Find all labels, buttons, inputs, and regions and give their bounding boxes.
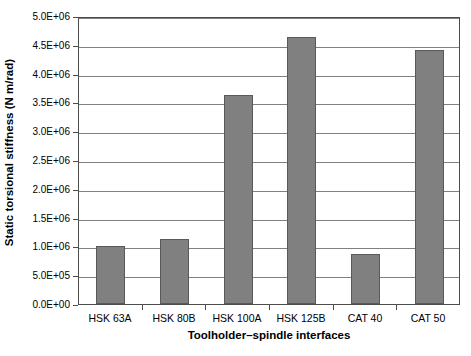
gridline <box>79 133 459 134</box>
bar[interactable] <box>351 254 380 304</box>
bar[interactable] <box>287 37 316 304</box>
gridline <box>79 248 459 249</box>
x-axis-tick-mark <box>396 305 397 310</box>
y-axis-tick-label: 2.0E+06 <box>14 184 70 196</box>
y-axis-tick-label: 3.0E+06 <box>14 126 70 138</box>
y-axis-tick-label: 2.5E+06 <box>14 155 70 167</box>
gridline <box>79 191 459 192</box>
gridline <box>79 104 459 105</box>
y-axis-tick-label: 4.0E+06 <box>14 69 70 81</box>
gridline <box>79 47 459 48</box>
y-axis-tick-label: 1.0E+06 <box>14 241 70 253</box>
gridline <box>79 277 459 278</box>
bar[interactable] <box>160 239 189 304</box>
x-axis-tick-mark <box>142 305 143 310</box>
bar-chart-figure: Static torsional stiffness (N m/rad) 0.0… <box>0 0 471 356</box>
gridline <box>79 220 459 221</box>
y-axis-tick-label: 1.5E+06 <box>14 213 70 225</box>
bar[interactable] <box>224 95 253 304</box>
y-axis-tick-label: 5.0E+06 <box>14 11 70 23</box>
y-axis-tick-mark <box>73 305 78 306</box>
x-axis-category-label: HSK 125B <box>269 311 333 325</box>
gridline <box>79 18 459 19</box>
x-axis-tick-mark <box>205 305 206 310</box>
bar[interactable] <box>96 246 125 304</box>
gridline <box>79 162 459 163</box>
y-axis-tick-label: 3.5E+06 <box>14 97 70 109</box>
gridline <box>79 76 459 77</box>
x-axis-tick-mark <box>269 305 270 310</box>
y-axis-tick-label: 5.0E+05 <box>14 270 70 282</box>
y-axis-tick-label: 4.5E+06 <box>14 40 70 52</box>
x-axis-tick-mark <box>333 305 334 310</box>
x-axis-category-label: HSK 80B <box>142 311 206 325</box>
x-axis-title: Toolholder–spindle interfaces <box>78 329 460 341</box>
plot-area <box>78 17 460 305</box>
x-axis-category-label: CAT 40 <box>333 311 397 325</box>
x-axis-category-label: HSK 63A <box>78 311 142 325</box>
x-axis-category-label: HSK 100A <box>205 311 269 325</box>
y-axis-tick-label: 0.0E+00 <box>14 299 70 311</box>
bar[interactable] <box>415 50 444 304</box>
x-axis-category-label: CAT 50 <box>396 311 460 325</box>
